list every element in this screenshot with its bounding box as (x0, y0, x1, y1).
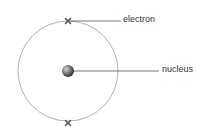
nucleus-icon (62, 65, 74, 77)
nucleus-label: nucleus (162, 65, 193, 74)
electron-label: electron (123, 15, 155, 24)
